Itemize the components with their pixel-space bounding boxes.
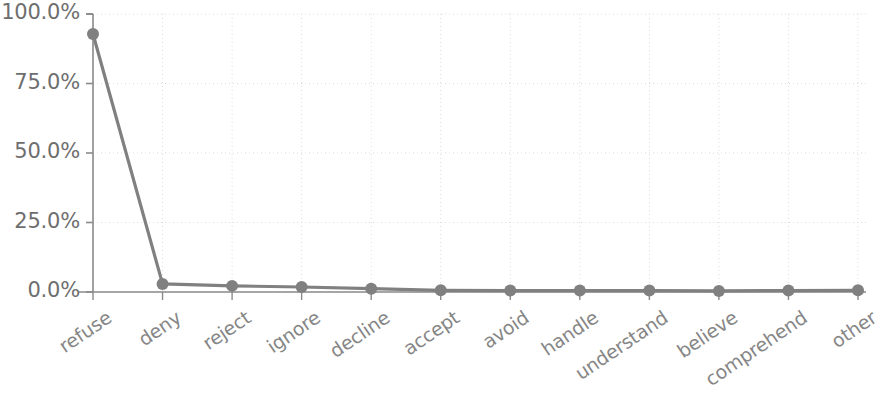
data-point-marker [782, 285, 794, 297]
data-point-marker [226, 280, 238, 292]
y-axis-tick-label: 0.0% [27, 278, 80, 302]
data-point-marker [365, 283, 377, 295]
data-point-marker [852, 284, 864, 296]
data-point-marker [435, 284, 447, 296]
axis-tick-marks [86, 14, 858, 300]
data-point-marker [713, 285, 725, 297]
y-axis-tick-label: 25.0% [14, 209, 80, 233]
data-point-marker [643, 285, 655, 297]
chart-axes [78, 14, 866, 292]
data-point-marker [574, 285, 586, 297]
horizontal-gridlines [93, 14, 866, 292]
y-axis-tick-label: 100.0% [1, 0, 80, 24]
series-markers-frequency [87, 28, 864, 297]
data-point-marker [87, 28, 99, 40]
data-point-marker [157, 278, 169, 290]
data-point-marker [504, 285, 516, 297]
data-point-marker [296, 281, 308, 293]
series-line-frequency [93, 34, 858, 291]
y-axis-tick-label: 50.0% [14, 139, 80, 163]
y-axis-tick-label: 75.0% [14, 70, 80, 94]
vertical-gridlines [93, 14, 858, 292]
